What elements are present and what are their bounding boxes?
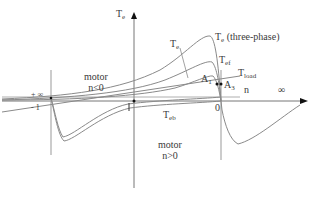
y-axis-label: Te (116, 9, 125, 21)
label-tload: Tload (238, 68, 256, 80)
x-axis-label: n (244, 85, 249, 95)
marker-a3 (220, 83, 223, 86)
curve-te-three-phase (2, 36, 300, 144)
label-a1: A1 (201, 74, 212, 86)
x-axis-arrow-icon (300, 98, 308, 104)
diagram-canvas (0, 0, 310, 199)
left-minus-one-label: - 1 (31, 104, 40, 112)
marker-a1 (216, 83, 219, 86)
curve-teb-lower (51, 98, 221, 141)
marker-center (133, 100, 136, 103)
label-tef: Tef (219, 55, 231, 67)
label-a3: A3 (224, 80, 235, 92)
label-te: Te (170, 39, 179, 51)
marker-left (50, 97, 53, 100)
label-teb: Teb (163, 110, 176, 122)
y-axis-arrow-icon (131, 12, 137, 19)
x-infinity-label: ∞ (278, 85, 285, 95)
region-motor-n-positive: motor n>0 (150, 140, 190, 161)
left-infinity-label: + ∞ (31, 91, 43, 99)
region-motor-n-negative: motor n<0 (76, 72, 116, 93)
label-te-three-phase: Te (three-phase) (215, 32, 279, 44)
torque-speed-diagram: Te n ∞ + ∞ - 1 0 Te (three-phase) Tef Te… (0, 0, 310, 199)
origin-zero-label: 0 (215, 103, 220, 113)
